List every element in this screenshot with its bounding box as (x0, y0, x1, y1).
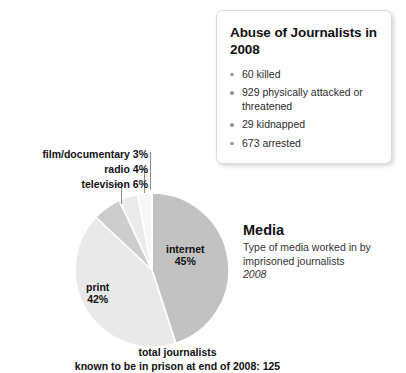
media-description: Type of media worked in by imprisoned jo… (243, 241, 395, 268)
slice-label-radio: radio 4% (104, 163, 148, 175)
slice-label-internet-name: internet (166, 243, 205, 255)
pie-svg (74, 192, 230, 348)
slice-label-internet: internet 45% (166, 243, 205, 268)
list-item: 60 killed (230, 68, 378, 82)
abuse-callout-box: Abuse of Journalists in 2008 60 killed 9… (216, 10, 392, 164)
list-item: 929 physically attacked or threatened (230, 86, 378, 114)
list-item: 673 arrested (230, 137, 378, 151)
slice-label-print: print 42% (86, 281, 109, 306)
list-item: 29 kidnapped (230, 118, 378, 132)
list-item-label: 673 arrested (242, 137, 301, 149)
callout-title: Abuse of Journalists in 2008 (230, 25, 378, 59)
media-year: 2008 (243, 268, 395, 280)
bullet-icon (230, 91, 234, 95)
slice-label-internet-pct: 45% (166, 255, 205, 267)
slice-label-film: film/documentary 3% (42, 148, 148, 160)
list-item-label: 60 killed (242, 68, 281, 80)
slice-label-television: television 6% (81, 178, 148, 190)
leader-line-film (150, 152, 151, 190)
slice-label-print-pct: 42% (86, 293, 109, 305)
chart-caption: total journalists known to be in prison … (0, 345, 355, 373)
slice-label-print-name: print (86, 281, 109, 293)
bullet-icon (230, 142, 234, 146)
media-title: Media (243, 222, 395, 238)
bullet-icon (230, 123, 234, 127)
media-pie-chart (74, 192, 230, 348)
caption-line-1: total journalists (0, 345, 355, 359)
media-info-block: Media Type of media worked in by impriso… (243, 222, 395, 280)
bullet-icon (230, 73, 234, 77)
list-item-label: 929 physically attacked or threatened (242, 86, 363, 112)
caption-line-2: known to be in prison at end of 2008: 12… (0, 359, 355, 373)
callout-list: 60 killed 929 physically attacked or thr… (230, 68, 378, 151)
list-item-label: 29 kidnapped (242, 118, 305, 130)
